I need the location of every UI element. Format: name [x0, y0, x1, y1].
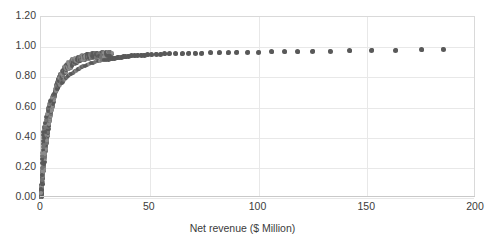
data-point [234, 50, 239, 55]
gridline-y-1 [41, 168, 474, 169]
gridline-y-4 [41, 77, 474, 78]
x-axis-line [40, 196, 475, 197]
data-point [180, 51, 185, 56]
data-point [217, 50, 222, 55]
data-point [256, 50, 261, 55]
data-point [208, 50, 213, 55]
data-point [193, 51, 198, 56]
data-point [40, 178, 44, 182]
x-tick-label-1: 50 [129, 200, 169, 212]
data-point [295, 49, 300, 54]
gridline-y-2 [41, 138, 474, 139]
y-tick-label-4: 0.80 [0, 70, 36, 81]
data-point [393, 48, 398, 53]
y-tick-label-2: 0.40 [0, 131, 36, 142]
data-point [167, 51, 172, 56]
gridline-y-3 [41, 108, 474, 109]
data-point [347, 48, 352, 53]
data-point [310, 49, 315, 54]
y-tick-label-5: 1.00 [0, 40, 36, 51]
data-point [441, 47, 446, 52]
data-point [173, 51, 178, 56]
plot-area [40, 16, 475, 197]
data-point [42, 151, 46, 155]
data-point [269, 49, 274, 54]
y-tick-label-6: 1.20 [0, 10, 36, 21]
data-point [40, 166, 44, 170]
data-point [199, 51, 204, 56]
data-point [328, 49, 333, 54]
x-axis-title: Net revenue ($ Million) [0, 222, 485, 234]
x-tick-label-3: 150 [346, 200, 386, 212]
data-point [369, 48, 374, 53]
gridline-x-1 [150, 17, 151, 196]
y-tick-label-3: 0.60 [0, 101, 36, 112]
x-tick-label-4: 200 [455, 200, 485, 212]
gridline-x-2 [259, 17, 260, 196]
data-point [226, 50, 231, 55]
gridline-y-5 [41, 47, 474, 48]
data-point [419, 47, 424, 52]
data-point [43, 130, 47, 134]
data-point [245, 50, 250, 55]
x-tick-label-0: 0 [20, 200, 60, 212]
chart-root: 0.000.200.400.600.801.001.20 05010015020… [0, 0, 485, 246]
x-tick-label-2: 100 [238, 200, 278, 212]
y-tick-label-1: 0.20 [0, 161, 36, 172]
gridline-y-0 [41, 198, 474, 199]
data-point [186, 51, 191, 56]
data-point [282, 49, 287, 54]
gridline-x-3 [367, 17, 368, 196]
